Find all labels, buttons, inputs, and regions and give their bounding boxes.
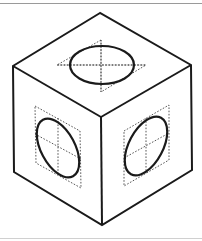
- edge-left-to-center: [13, 66, 101, 117]
- right-face-circle: [116, 110, 176, 182]
- cube-edges: [13, 13, 192, 225]
- edge-center-to-bottom: [101, 117, 102, 225]
- right-face: [116, 105, 176, 186]
- edge-right-to-center: [101, 65, 191, 117]
- top-face: [57, 40, 146, 92]
- left-face: [28, 106, 88, 188]
- isometric-cube-diagram: [0, 0, 202, 241]
